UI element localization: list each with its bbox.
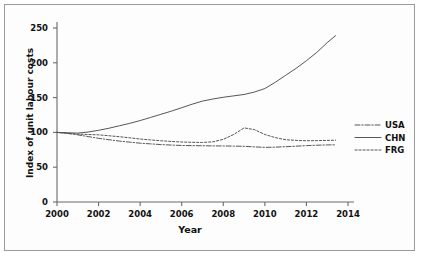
y-tick-label: 50 xyxy=(18,162,48,172)
legend-label-frg: FRG xyxy=(385,145,404,155)
x-tick-label: 2002 xyxy=(79,209,119,219)
chart-axes xyxy=(53,22,354,206)
x-tick-label: 2012 xyxy=(286,209,326,219)
x-tick-label: 2008 xyxy=(203,209,243,219)
legend-label-usa: USA xyxy=(385,120,405,130)
chart-series-group xyxy=(57,36,336,148)
y-tick-label: 250 xyxy=(18,23,48,33)
y-tick-label: 150 xyxy=(18,93,48,103)
y-tick-label: 0 xyxy=(18,197,48,207)
y-axis-title: Index of unit labour costs xyxy=(25,28,35,198)
x-tick-label: 2004 xyxy=(120,209,160,219)
series-line-chn xyxy=(57,36,336,133)
x-tick-label: 2006 xyxy=(162,209,202,219)
legend-swatches xyxy=(355,125,381,150)
x-tick-label: 2000 xyxy=(37,209,77,219)
legend-label-chn: CHN xyxy=(385,133,405,143)
x-tick-label: 2010 xyxy=(245,209,285,219)
y-tick-label: 200 xyxy=(18,58,48,68)
x-tick-label: 2014 xyxy=(328,209,368,219)
x-axis-title: Year xyxy=(150,224,230,235)
y-tick-label: 100 xyxy=(18,127,48,137)
